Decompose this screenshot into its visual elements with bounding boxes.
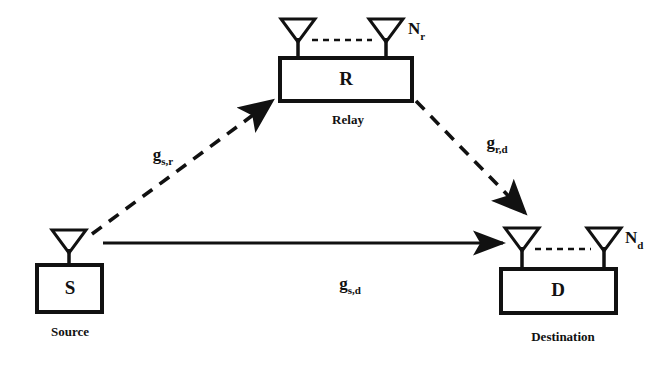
- relay-network-diagram: gs,r gr,d gs,d: [0, 0, 665, 369]
- destination-symbol: D: [551, 279, 565, 300]
- node-source[interactable]: S Source: [37, 230, 102, 339]
- node-relay[interactable]: Nr R Relay: [280, 19, 425, 127]
- relay-caption: Relay: [332, 112, 364, 127]
- source-antenna-icon: [52, 230, 86, 265]
- link-relay-to-destination-label: gr,d: [486, 133, 507, 155]
- link-relay-to-destination: gr,d: [416, 101, 525, 213]
- link-source-to-destination: gs,d: [103, 243, 503, 296]
- source-symbol: S: [65, 277, 76, 298]
- destination-caption: Destination: [531, 329, 595, 344]
- node-destination[interactable]: Nd D Destination: [501, 228, 643, 344]
- diagram-canvas: gs,r gr,d gs,d: [0, 0, 665, 369]
- relay-antenna-1-icon: [281, 19, 315, 57]
- destination-antenna-1-icon: [505, 228, 539, 268]
- destination-antenna-2-icon: [587, 228, 621, 268]
- link-source-to-relay-label: gs,r: [153, 145, 174, 167]
- link-source-to-relay-line: [92, 101, 272, 234]
- link-source-to-destination-label: gs,d: [339, 274, 361, 296]
- relay-antenna-count-label: Nr: [408, 19, 425, 42]
- source-caption: Source: [51, 324, 89, 339]
- relay-antenna-2-icon: [369, 19, 403, 57]
- relay-symbol: R: [339, 68, 353, 89]
- link-source-to-relay: gs,r: [92, 101, 272, 234]
- destination-antenna-count-label: Nd: [625, 228, 643, 251]
- link-relay-to-destination-line: [416, 101, 525, 213]
